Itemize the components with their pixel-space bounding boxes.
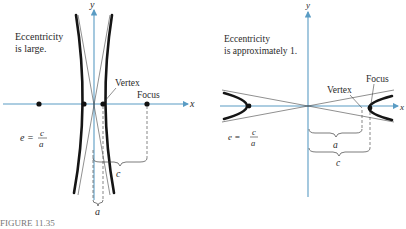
brace-a <box>309 129 362 137</box>
left-focus-point <box>247 104 252 109</box>
figure-caption: FIGURE 11.35 <box>0 218 55 228</box>
right-vertex-point <box>100 101 105 106</box>
left-vertex-point <box>81 101 86 106</box>
eccentricity-note-line2: is approximately 1. <box>224 46 297 56</box>
brace-a-label: a <box>333 140 338 150</box>
brace-c-label: c <box>336 158 341 168</box>
vertex-label: Vertex <box>327 85 352 95</box>
hyperbola-right-branch <box>369 96 392 120</box>
brace-c-label: c <box>116 168 121 179</box>
brace-c <box>93 158 147 166</box>
eccentricity-note-line2: is large. <box>15 43 46 54</box>
eccentricity-note-line1: Eccentricity <box>15 31 63 42</box>
brace-a-label: a <box>95 206 100 217</box>
eccentricity-note-line1: Eccentricity <box>224 34 270 44</box>
vertex-label: Vertex <box>115 78 140 88</box>
figure-canvas: x y Eccentricity is large. Vertex Focus … <box>0 0 406 229</box>
brace-c <box>309 148 370 156</box>
right-focus-point <box>144 101 149 106</box>
focus-label: Focus <box>366 74 389 84</box>
formula-numerator: c <box>40 128 44 138</box>
eccentricity-formula: e = c a <box>20 128 47 149</box>
focus-label: Focus <box>137 90 160 100</box>
y-axis-label: y <box>305 0 310 10</box>
x-axis-label: x <box>189 98 195 109</box>
right-focus-point <box>368 106 373 111</box>
left-focus-point <box>36 101 41 106</box>
formula-lhs: e = <box>228 132 240 142</box>
formula-denominator: a <box>39 139 44 149</box>
eccentricity-formula: e = c a <box>228 127 258 148</box>
y-axis-label: y <box>89 0 95 10</box>
left-panel: x y Eccentricity is large. Vertex Focus … <box>3 0 195 217</box>
formula-lhs: e = <box>20 132 34 143</box>
x-axis-label: x <box>399 102 404 112</box>
right-panel: x y Eccentricity is approximately 1. Ver… <box>220 0 404 197</box>
formula-numerator: c <box>252 127 256 137</box>
formula-denominator: a <box>251 138 255 148</box>
